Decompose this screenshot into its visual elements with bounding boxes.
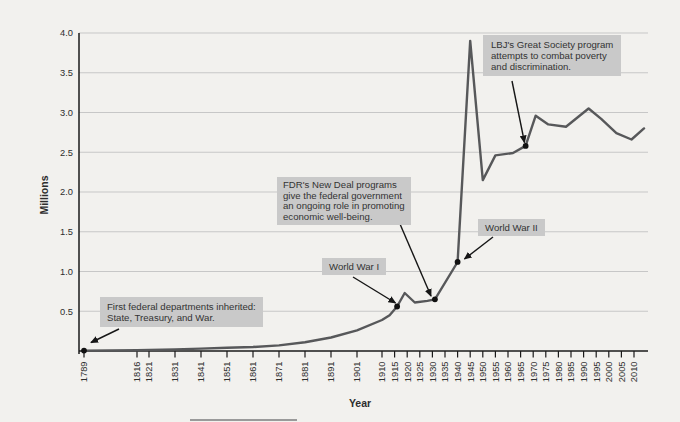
x-tick-label: 1851 <box>222 362 232 383</box>
y-tick-label: 3.5 <box>60 68 73 78</box>
annotation-text: and discrimination. <box>491 61 613 72</box>
x-tick-label: 1841 <box>196 362 206 383</box>
annotation-text: LBJ's Great Society program <box>491 39 613 50</box>
y-tick-label: 4.0 <box>60 28 73 38</box>
x-tick-label: 1980 <box>554 362 564 383</box>
y-tick-label: 1.0 <box>60 267 73 277</box>
annotation-first-departments: First federal departments inherited: Sta… <box>100 297 263 327</box>
x-tick-label: 1970 <box>529 362 539 383</box>
arrow-fdr-new-deal <box>400 224 431 296</box>
x-tick-label: 1950 <box>478 362 488 383</box>
data-point-marker <box>81 348 87 354</box>
x-tick-label: 1881 <box>300 362 310 383</box>
x-tick-label: 2010 <box>629 362 639 383</box>
x-tick-label: 1789 <box>79 362 89 383</box>
x-tick-label: 1861 <box>248 362 258 383</box>
x-tick-label: 1940 <box>453 362 463 383</box>
x-tick-label: 1891 <box>326 362 336 383</box>
annotation-world-war-1: World War I <box>322 258 386 275</box>
x-tick-label: 1821 <box>144 362 154 383</box>
annotation-text: State, Treasury, and War. <box>107 312 256 323</box>
x-tick-label: 1920 <box>403 362 413 383</box>
annotation-text: FDR's New Deal programs <box>283 180 405 191</box>
x-tick-label: 1871 <box>274 362 284 383</box>
x-tick-label: 1985 <box>566 362 576 383</box>
annotation-text: World War II <box>485 222 538 233</box>
x-tick-label: 1831 <box>170 362 180 383</box>
x-tick-label: 1990 <box>579 362 589 383</box>
x-tick-label: 1910 <box>377 362 387 383</box>
x-tick-label: 1930 <box>428 362 438 383</box>
x-axis-title: Year <box>349 397 371 409</box>
y-tick-label: 2.5 <box>60 148 73 158</box>
annotation-text: attempts to combat poverty <box>491 50 613 61</box>
data-point-marker <box>394 304 400 310</box>
x-tick-label: 1945 <box>466 362 476 383</box>
y-tick-label: 1.5 <box>60 227 73 237</box>
y-tick-label: 0.5 <box>60 307 73 317</box>
annotation-world-war-2: World War II <box>478 219 545 236</box>
x-tick-label: 1975 <box>541 362 551 383</box>
x-tick-label: 1901 <box>352 362 362 383</box>
annotation-fdr-new-deal: FDR's New Deal programs give the federal… <box>277 177 411 225</box>
y-tick-label: 2.0 <box>60 187 73 197</box>
annotation-text: economic well-being. <box>283 212 405 223</box>
x-tick-label: 1915 <box>390 362 400 383</box>
arrow-lbj-great-society <box>512 81 525 143</box>
x-tick-label: 1960 <box>503 362 513 383</box>
y-axis-title: Millions <box>38 175 50 214</box>
data-point-marker <box>432 296 438 302</box>
annotation-text: World War I <box>329 261 379 272</box>
x-tick-label: 1816 <box>132 362 142 383</box>
annotation-lbj-great-society: LBJ's Great Society program attempts to … <box>483 35 621 76</box>
x-tick-label: 1965 <box>516 362 526 383</box>
x-tick-label: 1935 <box>440 362 450 383</box>
annotation-text: First federal departments inherited: <box>107 301 256 312</box>
arrow-world-war-2 <box>465 237 494 259</box>
x-tick-label: 1995 <box>592 362 602 383</box>
data-point-marker <box>523 143 529 149</box>
data-point-marker <box>455 259 461 265</box>
x-tick-label: 1925 <box>415 362 425 383</box>
cropped-element-edge <box>190 419 297 421</box>
y-tick-label: 3.0 <box>60 108 73 118</box>
federal-employment-line-chart: 1789181618211831184118511861187118811891… <box>0 0 680 422</box>
x-tick-label: 1955 <box>491 362 501 383</box>
x-tick-label: 2000 <box>604 362 614 383</box>
x-tick-label: 2005 <box>617 362 627 383</box>
arrow-world-war-1 <box>353 277 396 303</box>
arrow-first-departments <box>91 329 119 343</box>
